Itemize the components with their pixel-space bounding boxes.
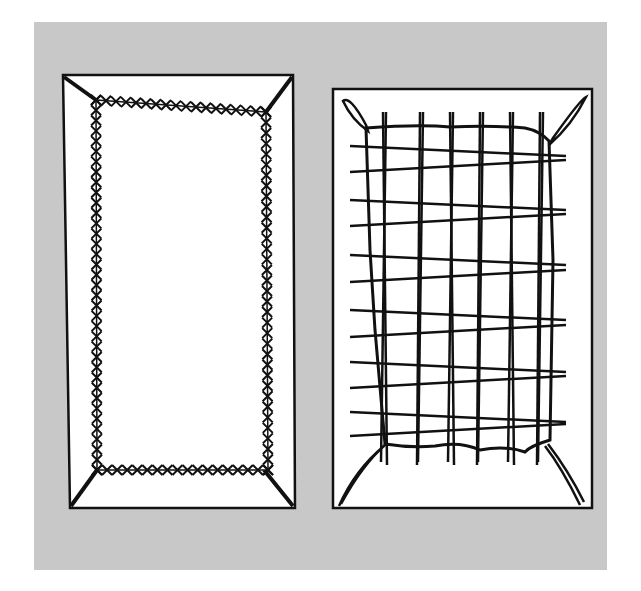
- right-frame: [333, 89, 592, 508]
- illustration: [0, 0, 641, 591]
- left-frame: [63, 75, 295, 508]
